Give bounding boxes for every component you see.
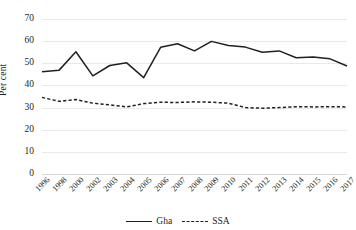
x-tick-label: 2002 bbox=[85, 176, 103, 194]
y-tick-label: 10 bbox=[25, 147, 35, 157]
y-tick-label: 50 bbox=[25, 59, 35, 69]
y-tick-label: 0 bbox=[29, 169, 34, 179]
x-tick-label: 2016 bbox=[322, 176, 340, 194]
legend-label: Gha bbox=[156, 216, 172, 226]
x-tick-label: 2012 bbox=[255, 176, 273, 194]
x-tick-label: 1996 bbox=[34, 176, 52, 194]
legend-swatch-gha-icon bbox=[126, 221, 152, 222]
x-tick-label: 2005 bbox=[136, 176, 154, 194]
y-tick-label: 70 bbox=[25, 14, 35, 24]
x-tick-label: 2011 bbox=[238, 176, 255, 193]
x-tick-label: 2009 bbox=[204, 176, 222, 194]
legend-label: SSA bbox=[212, 216, 229, 226]
x-tick-label: 2014 bbox=[288, 176, 306, 194]
legend-item-gha[interactable]: Gha bbox=[126, 216, 172, 226]
gridline-0 bbox=[42, 174, 347, 175]
y-tick-label: 60 bbox=[25, 36, 35, 46]
y-tick-label: 20 bbox=[25, 125, 35, 135]
y-tick-label: 40 bbox=[25, 81, 35, 91]
x-tick-label: 2015 bbox=[305, 176, 323, 194]
x-tick-label: 2013 bbox=[271, 176, 289, 194]
y-tick-label: 30 bbox=[25, 103, 35, 113]
x-tick-label: 2006 bbox=[153, 176, 171, 194]
x-tick-label: 2007 bbox=[170, 176, 188, 194]
legend-swatch-ssa-icon bbox=[182, 221, 208, 222]
x-tick-label: 2000 bbox=[68, 176, 86, 194]
chart-legend: GhaSSA bbox=[0, 216, 356, 226]
x-axis: 1996199820002002200320042005200620072008… bbox=[42, 176, 347, 210]
x-tick-label: 2004 bbox=[119, 176, 137, 194]
plot-area bbox=[42, 19, 347, 174]
series-layer bbox=[42, 19, 347, 174]
series-line-gha bbox=[42, 41, 347, 77]
x-tick-label: 2017 bbox=[339, 176, 356, 194]
line-chart: Per cent 010203040506070 199619982000200… bbox=[0, 0, 356, 230]
x-tick-label: 2010 bbox=[221, 176, 239, 194]
y-axis: 010203040506070 bbox=[0, 19, 38, 174]
series-line-ssa bbox=[42, 97, 347, 108]
x-tick-label: 2003 bbox=[102, 176, 120, 194]
x-tick-label: 1998 bbox=[51, 176, 69, 194]
legend-item-ssa[interactable]: SSA bbox=[182, 216, 229, 226]
x-tick-label: 2008 bbox=[187, 176, 205, 194]
